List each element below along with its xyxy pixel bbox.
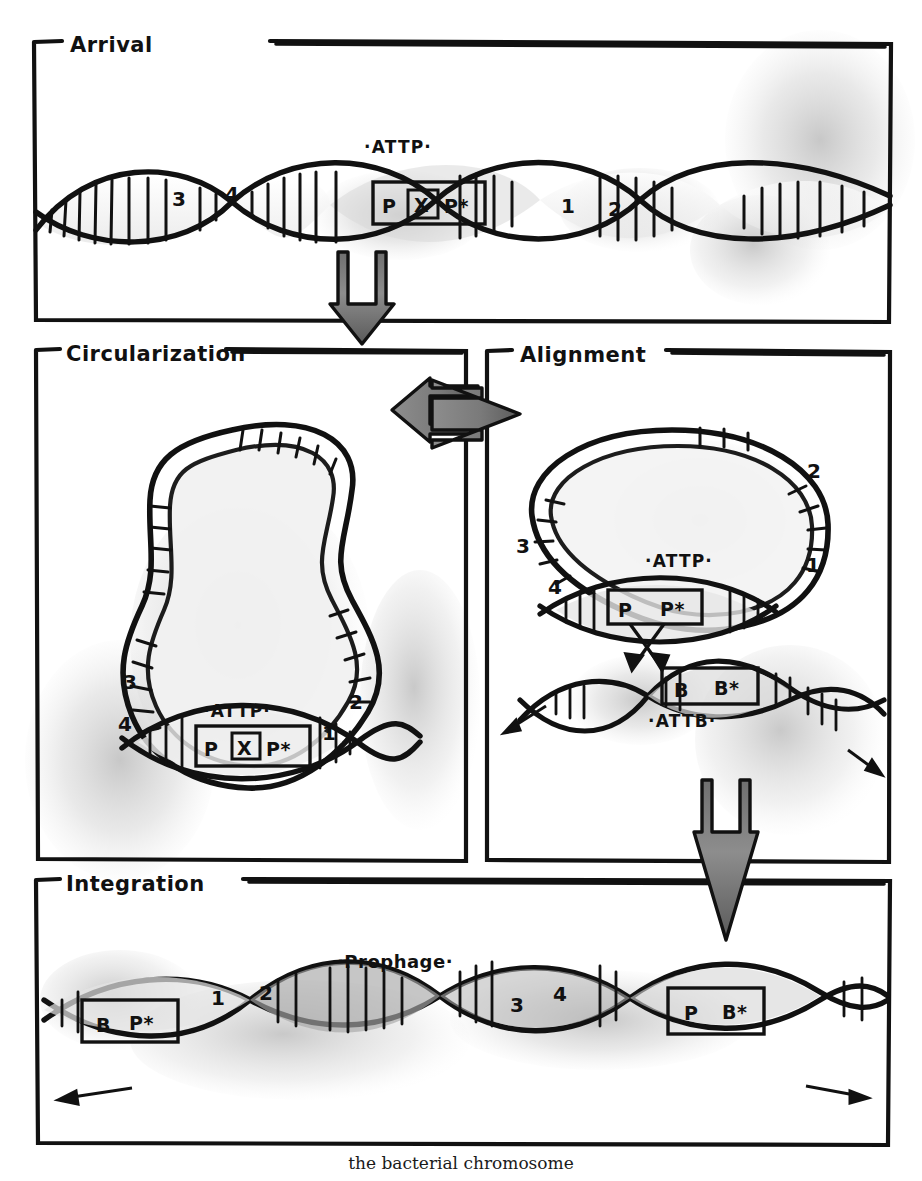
integration-tick-1: 1 <box>211 986 225 1010</box>
circularization-box-middle: X <box>237 737 252 759</box>
arrival-box-right: P* <box>444 195 469 217</box>
flow-arrow-arrival-to-circularization <box>330 252 394 344</box>
flow-arrow-circularization-to-alignment <box>392 378 520 448</box>
circularization-attp-label: ·ATTP· <box>203 701 271 721</box>
integration-tick-3: 3 <box>510 993 524 1017</box>
arrival-attp-label: ·ATTP· <box>364 137 432 157</box>
circularization-tick-3: 3 <box>123 670 137 694</box>
alignment-attp-label: ·ATTP· <box>645 551 713 571</box>
arrival-tick-2: 2 <box>608 197 622 221</box>
integration-right-box-right: B* <box>722 1001 747 1023</box>
arrival-box-left: P <box>382 195 396 217</box>
alignment-attb-box-right: B* <box>714 677 739 699</box>
circularization-box-left: P <box>204 738 218 760</box>
circularization-tick-2: 2 <box>349 690 363 714</box>
diagram-canvas: Arrival Circularization Alignment Integr… <box>0 0 922 1181</box>
alignment-tick-4: 4 <box>548 575 562 599</box>
panel-title-circularization: Circularization <box>66 342 246 366</box>
integration-direction-arrows <box>58 1086 868 1104</box>
arrival-tick-1: 1 <box>561 194 575 218</box>
integration-tick-2: 2 <box>259 981 273 1005</box>
integration-left-box-left: B <box>96 1014 111 1036</box>
arrival-box-middle: X <box>414 194 429 216</box>
integration-tick-4: 4 <box>553 982 567 1006</box>
circularization-box-right: P* <box>266 738 291 760</box>
panel-title-alignment: Alignment <box>520 343 646 367</box>
alignment-attb-box-left: B <box>674 679 689 701</box>
alignment-tick-2: 2 <box>807 459 821 483</box>
panel-title-integration: Integration <box>66 872 205 896</box>
alignment-tick-3: 3 <box>516 534 530 558</box>
arrival-tick-3: 3 <box>172 187 186 211</box>
integration-right-box-left: P <box>684 1002 698 1024</box>
integration-prophage-label: ·Prophage· <box>337 951 453 972</box>
alignment-attp-box-right: P* <box>660 598 685 620</box>
figure-caption: the bacterial chromosome <box>0 1152 922 1175</box>
circularization-tick-1: 1 <box>322 721 336 745</box>
alignment-tick-1: 1 <box>806 553 820 577</box>
circularization-tick-4: 4 <box>118 712 132 736</box>
alignment-attb-label: ·ATTB· <box>648 711 717 731</box>
arrival-tick-4: 4 <box>225 182 239 206</box>
alignment-attp-box-left: P <box>618 599 632 621</box>
figure-root: Arrival Circularization Alignment Integr… <box>0 0 922 1181</box>
panel-title-arrival: Arrival <box>70 33 153 57</box>
integration-left-box-right: P* <box>129 1012 154 1034</box>
